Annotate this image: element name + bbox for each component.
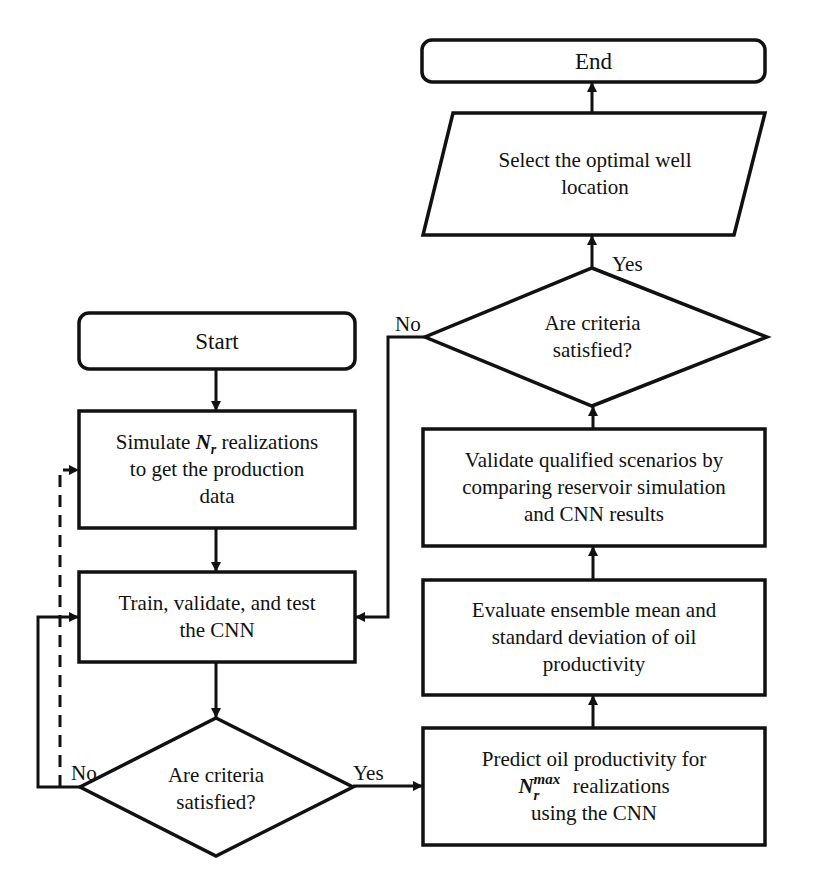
decision2-yes-label: Yes (612, 253, 643, 275)
decision2-line1: Are criteria (544, 310, 640, 337)
simulate-line1-pre: Simulate (116, 430, 196, 454)
edge-decision1-no-simulate-dashed (60, 470, 78, 787)
decision1-no-label: No (71, 762, 97, 784)
predict-var-n: N (518, 774, 533, 798)
evaluate-label: Evaluate ensemble mean and standard devi… (423, 580, 765, 695)
decision1-line2: satisfied? (176, 789, 255, 816)
predict-line2-post: realizations (568, 774, 670, 798)
simulate-label: Simulate Nr realizations to get the prod… (79, 411, 355, 528)
decision2-label: Are criteria satisfied? (480, 300, 705, 374)
predict-line2: Nmaxr realizations (518, 773, 669, 800)
edge-decision2-no-train (356, 337, 425, 617)
predict-subsup: maxr (534, 792, 568, 793)
predict-label: Predict oil productivity for Nmaxr reali… (423, 728, 765, 845)
simulate-line3: data (200, 483, 235, 510)
predict-line3: using the CNN (531, 800, 657, 827)
predict-superscript: max (534, 772, 561, 787)
evaluate-line1: Evaluate ensemble mean and (472, 597, 716, 624)
end-text: End (575, 48, 612, 75)
select-label: Select the optimal well location (440, 113, 750, 235)
decision1-line1: Are criteria (168, 762, 264, 789)
evaluate-line2: standard deviation of oil (492, 624, 697, 651)
end-label: End (422, 40, 765, 82)
train-line2: the CNN (179, 617, 254, 644)
decision1-yes-label: Yes (353, 762, 384, 784)
train-line1: Train, validate, and test (119, 590, 316, 617)
select-line1: Select the optimal well (498, 147, 691, 174)
decision2-no-label: No (395, 313, 421, 335)
validate-line3: and CNN results (524, 501, 664, 528)
evaluate-line3: productivity (543, 651, 646, 678)
decision1-label: Are criteria satisfied? (110, 752, 322, 826)
simulate-line1: Simulate Nr realizations (116, 429, 319, 456)
simulate-var-n: N (196, 430, 211, 454)
simulate-line1-post: realizations (216, 430, 318, 454)
train-label: Train, validate, and test the CNN (79, 572, 355, 662)
start-label: Start (79, 313, 355, 369)
start-text: Start (195, 328, 238, 355)
select-line2: location (561, 174, 629, 201)
validate-label: Validate qualified scenarios by comparin… (423, 429, 765, 546)
validate-line2: comparing reservoir simulation (462, 474, 726, 501)
predict-subscript: r (534, 788, 540, 803)
decision2-line2: satisfied? (553, 337, 632, 364)
predict-line1: Predict oil productivity for (482, 746, 707, 773)
validate-line1: Validate qualified scenarios by (465, 447, 723, 474)
simulate-line2: to get the production (130, 456, 304, 483)
